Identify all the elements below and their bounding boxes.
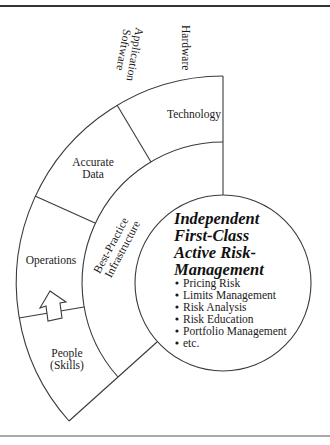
best-practice-infrastructure-label: Best-Practice Infrastructure: [91, 213, 142, 281]
bullet-icon: [175, 341, 178, 344]
accurate-data-label: Accurate Data: [72, 156, 114, 180]
bullet-item: Risk Education: [175, 313, 253, 325]
hardware-label: Hardware: [180, 25, 192, 70]
people-label: People (Skills): [50, 347, 84, 372]
technology-label: Technology: [167, 108, 221, 121]
operations-label: Operations: [26, 254, 77, 267]
bullet-item: etc.: [175, 337, 199, 349]
up-arrow-icon: [40, 291, 66, 321]
bullet-icon: [175, 305, 178, 308]
bullet-icon: [175, 293, 178, 296]
svg-text:(Skills): (Skills): [50, 359, 84, 372]
risk-management-diagram: Hardware Application Software Technology…: [0, 0, 330, 445]
bullet-icon: [175, 329, 178, 332]
core-bullet-list: Pricing Risk Limits Management Risk Anal…: [175, 277, 287, 349]
svg-text:Accurate: Accurate: [72, 156, 114, 168]
divider-accurate-data-operations: [35, 196, 95, 223]
svg-text:etc.: etc.: [183, 337, 199, 349]
divider-technology-accurate-data: [117, 105, 151, 162]
core-title: Independent First-Class Active Risk- Man…: [173, 209, 264, 279]
bullet-icon: [175, 317, 178, 320]
bullet-icon: [175, 281, 178, 284]
application-software-label: Application Software: [113, 25, 146, 83]
svg-text:Risk Education: Risk Education: [183, 313, 254, 325]
svg-text:Data: Data: [82, 168, 104, 180]
